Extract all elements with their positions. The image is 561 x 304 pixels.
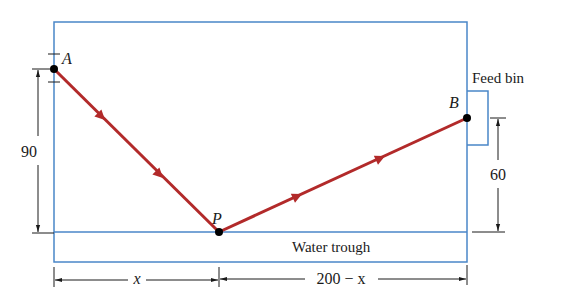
label-p: P [211,210,222,227]
label-a: A [61,50,72,67]
feed-trough-diagram: A P B Feed bin Water trough 90 60 x 200 … [0,0,561,304]
water-trough-label: Water trough [292,239,371,255]
feed-bin-label: Feed bin [472,70,525,86]
dim-90-label: 90 [21,143,37,160]
path-arrow-icon [291,189,304,202]
path-a-to-p [54,69,219,232]
point-b [463,114,471,122]
point-p [215,228,223,236]
path-p-to-b [219,118,467,232]
dim-60-label: 60 [490,166,506,183]
field-boundary [54,22,467,262]
path-arrow-icon [374,151,387,164]
point-a [50,65,58,73]
label-b: B [449,94,459,111]
dim-200-x-label: 200 − x [316,270,365,287]
dim-x-label: x [132,270,140,287]
